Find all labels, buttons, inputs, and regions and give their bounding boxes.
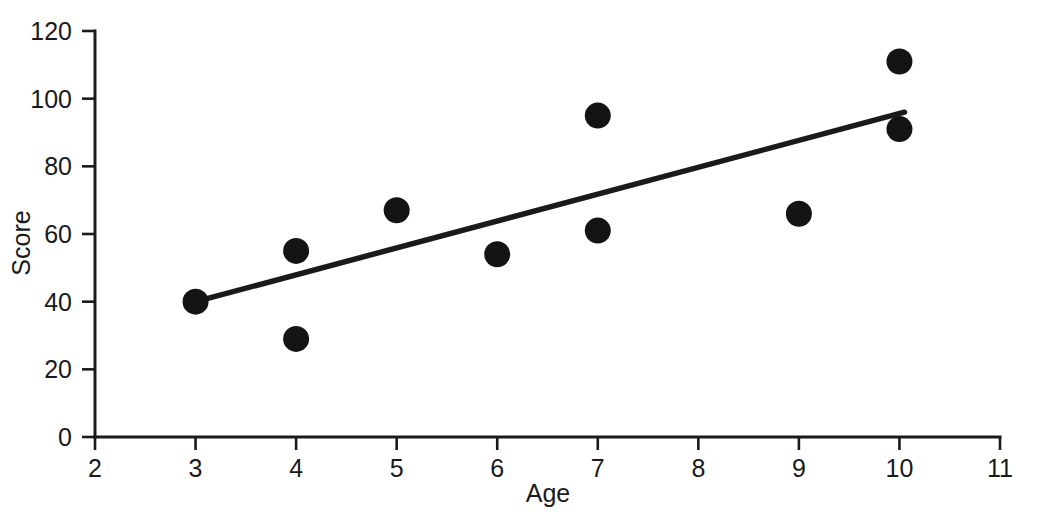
data-point-marker [886,116,912,142]
x-tick-label: 2 [88,454,102,482]
y-tick-group: 020406080100120 [30,17,95,451]
x-tick-label: 9 [792,454,806,482]
x-tick-label: 8 [691,454,705,482]
x-tick-label: 4 [289,454,303,482]
plot-canvas: 020406080100120 Score 234567891011 Age [0,0,1042,529]
data-points [183,48,913,351]
y-tick-label: 120 [30,17,72,45]
x-tick-label: 3 [189,454,203,482]
x-tick-group: 234567891011 [88,437,1013,482]
y-axis: 020406080100120 Score [7,17,95,451]
x-tick-label: 11 [987,454,1013,482]
data-point-marker [484,241,510,267]
scatter-chart: 020406080100120 Score 234567891011 Age [0,0,1042,529]
y-tick-label: 20 [44,355,72,383]
data-point-marker [585,103,611,129]
y-tick-label: 80 [44,152,72,180]
y-tick-label: 40 [44,288,72,316]
data-point-marker [183,289,209,315]
x-axis-title: Age [526,479,570,507]
data-point-marker [585,218,611,244]
y-tick-label: 60 [44,220,72,248]
data-point-marker [786,201,812,227]
x-tick-label: 5 [390,454,404,482]
y-tick-label: 0 [58,423,72,451]
x-tick-label: 7 [591,454,605,482]
y-tick-label: 100 [30,85,72,113]
x-axis: 234567891011 Age [88,437,1013,507]
data-point-marker [886,48,912,74]
y-axis-title: Score [7,210,35,275]
data-point-marker [283,238,309,264]
data-point-marker [384,197,410,223]
data-point-marker [283,326,309,352]
x-tick-label: 10 [886,454,914,482]
x-tick-label: 6 [490,454,504,482]
